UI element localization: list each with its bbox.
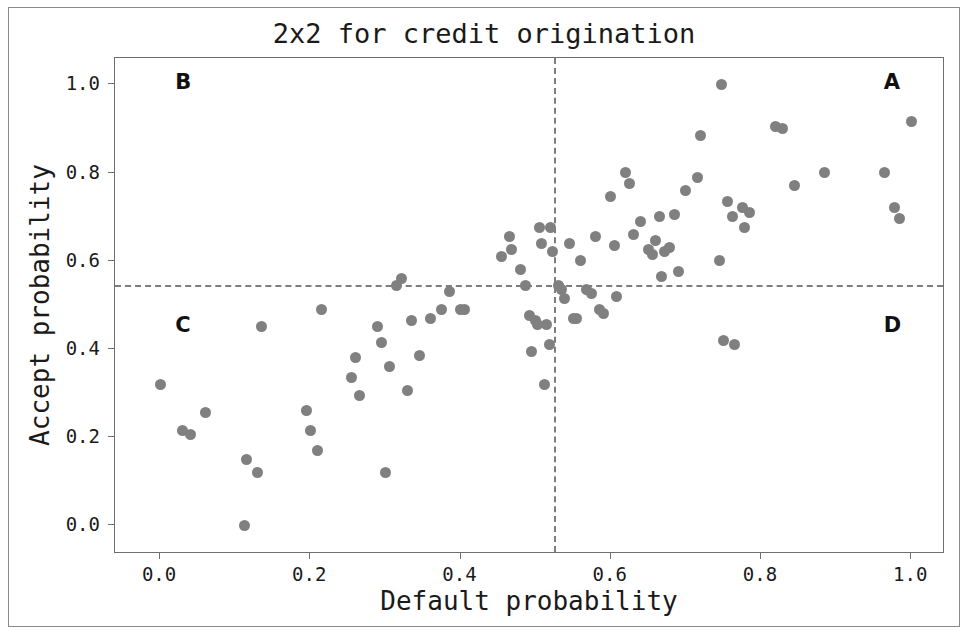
scatter-point [669, 209, 680, 220]
y-tick-label: 0.0 [8, 513, 100, 535]
scatter-point [496, 251, 507, 262]
vertical-threshold-line [554, 58, 556, 552]
scatter-point [664, 242, 675, 253]
scatter-point [459, 304, 470, 315]
scatter-point [620, 167, 631, 178]
y-tick-label: 1.0 [8, 72, 100, 94]
scatter-point [777, 123, 788, 134]
scatter-point [504, 231, 515, 242]
y-tick-mark [108, 172, 114, 173]
x-tick-mark [610, 553, 611, 559]
scatter-point [372, 321, 383, 332]
x-tick-label: 0.6 [593, 563, 627, 585]
scatter-point [414, 350, 425, 361]
scatter-point [520, 280, 531, 291]
quadrant-label-a: A [884, 70, 900, 94]
quadrant-label-b: B [175, 70, 191, 94]
scatter-point [354, 390, 365, 401]
scatter-point [239, 520, 250, 531]
scatter-point [605, 191, 616, 202]
scatter-point [744, 207, 755, 218]
scatter-point [654, 211, 665, 222]
scatter-point [739, 222, 750, 233]
scatter-point [547, 246, 558, 257]
scatter-point [656, 271, 667, 282]
y-tick-mark [108, 260, 114, 261]
y-tick-label: 0.2 [8, 425, 100, 447]
scatter-point [241, 454, 252, 465]
scatter-point [155, 379, 166, 390]
scatter-point [396, 273, 407, 284]
scatter-point [506, 244, 517, 255]
x-tick-label: 0.8 [743, 563, 777, 585]
scatter-point [185, 429, 196, 440]
screenshot-root: 2x2 for credit origination BACD Default … [0, 0, 968, 639]
scatter-point [673, 266, 684, 277]
chart-title: 2x2 for credit origination [0, 18, 968, 49]
scatter-point [564, 238, 575, 249]
scatter-point [695, 130, 706, 141]
x-tick-label: 0.2 [292, 563, 326, 585]
x-axis-label: Default probability [114, 586, 944, 616]
scatter-point [200, 407, 211, 418]
scatter-point [894, 213, 905, 224]
scatter-point [722, 196, 733, 207]
scatter-point [301, 405, 312, 416]
scatter-point [624, 178, 635, 189]
scatter-point [515, 264, 526, 275]
x-tick-mark [910, 553, 911, 559]
scatter-point [425, 313, 436, 324]
x-tick-mark [159, 553, 160, 559]
scatter-point [571, 313, 582, 324]
y-tick-label: 0.8 [8, 161, 100, 183]
x-tick-mark [760, 553, 761, 559]
scatter-point [544, 339, 555, 350]
scatter-point [402, 385, 413, 396]
scatter-point [611, 291, 622, 302]
scatter-point [316, 304, 327, 315]
scatter-point [650, 235, 661, 246]
scatter-point [680, 185, 691, 196]
scatter-point [305, 425, 316, 436]
y-tick-mark [108, 436, 114, 437]
scatter-point [380, 467, 391, 478]
scatter-point [635, 216, 646, 227]
scatter-point [312, 445, 323, 456]
quadrant-label-c: C [175, 313, 190, 337]
scatter-point [406, 315, 417, 326]
scatter-point [559, 293, 570, 304]
scatter-point [628, 229, 639, 240]
scatter-point [727, 211, 738, 222]
scatter-point [647, 249, 658, 260]
scatter-point [534, 222, 545, 233]
scatter-point [609, 240, 620, 251]
y-tick-label: 0.6 [8, 249, 100, 271]
x-tick-mark [309, 553, 310, 559]
y-axis-label: Accept probability [25, 95, 55, 515]
scatter-point [586, 288, 597, 299]
scatter-point [536, 238, 547, 249]
scatter-point [716, 79, 727, 90]
scatter-point [598, 308, 609, 319]
y-tick-mark [108, 524, 114, 525]
scatter-point [819, 167, 830, 178]
scatter-point [789, 180, 800, 191]
scatter-point [256, 321, 267, 332]
scatter-point [436, 304, 447, 315]
scatter-point [384, 361, 395, 372]
scatter-point [692, 172, 703, 183]
scatter-point [541, 319, 552, 330]
scatter-point [718, 335, 729, 346]
scatter-point [346, 372, 357, 383]
quadrant-label-d: D [884, 313, 901, 337]
plot-area: BACD [114, 57, 944, 553]
scatter-point [590, 231, 601, 242]
y-tick-mark [108, 83, 114, 84]
scatter-point [376, 337, 387, 348]
scatter-point [526, 346, 537, 357]
y-tick-mark [108, 348, 114, 349]
x-tick-label: 1.0 [893, 563, 927, 585]
y-tick-label: 0.4 [8, 337, 100, 359]
scatter-point [444, 286, 455, 297]
x-tick-label: 0.0 [142, 563, 176, 585]
